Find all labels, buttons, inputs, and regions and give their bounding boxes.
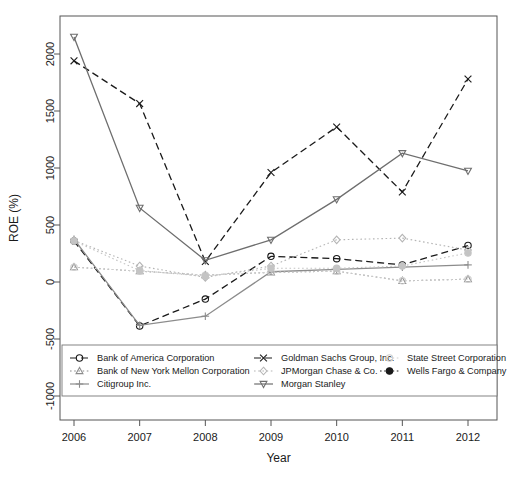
legend-item[interactable]: Bank of New York Mellon Corporation <box>70 366 250 376</box>
legend-label: Morgan Stanley <box>281 379 346 389</box>
chart-root: -1000-5000500100015002000 20062007200820… <box>0 0 512 482</box>
legend-label: JPMorgan Chase & Co. <box>281 366 378 376</box>
x-tick-label: 2012 <box>456 431 480 443</box>
y-tick-label: 500 <box>44 216 56 234</box>
y-axis-title: ROE (%) <box>7 194 21 242</box>
data-point-marker <box>136 267 142 273</box>
y-tick-label: -500 <box>44 328 56 350</box>
x-tick-label: 2010 <box>324 431 348 443</box>
legend-label: Citigroup Inc. <box>97 379 151 389</box>
x-tick-label: 2006 <box>62 431 86 443</box>
legend-label: Bank of New York Mellon Corporation <box>97 366 250 376</box>
data-point-marker <box>202 273 208 279</box>
data-point-marker <box>465 250 471 256</box>
data-point-marker <box>399 263 405 269</box>
y-tick-label: 1500 <box>44 99 56 123</box>
data-point-marker <box>71 238 77 244</box>
legend-label: Goldman Sachs Group, Inc. <box>281 353 394 363</box>
x-tick-label: 2011 <box>391 431 415 443</box>
y-tick-label: 1000 <box>44 156 56 180</box>
legend-label: State Street Corporation <box>407 353 506 363</box>
y-tick-label: 2000 <box>44 42 56 66</box>
y-tick-label: 0 <box>44 279 56 285</box>
x-tick-label: 2007 <box>127 431 151 443</box>
roe-line-chart: -1000-5000500100015002000 20062007200820… <box>0 0 512 482</box>
legend-label: Wells Fargo & Company <box>407 366 507 376</box>
legend-box: Bank of America CorporationBank of New Y… <box>62 345 507 396</box>
x-axis-title: Year <box>266 451 290 465</box>
x-tick-label: 2008 <box>193 431 217 443</box>
legend-label: Bank of America Corporation <box>97 353 214 363</box>
data-point-marker <box>268 265 274 271</box>
data-point-marker <box>386 368 392 374</box>
x-tick-label: 2009 <box>259 431 283 443</box>
y-tick-label: -1000 <box>44 382 56 410</box>
data-point-marker <box>333 265 339 271</box>
